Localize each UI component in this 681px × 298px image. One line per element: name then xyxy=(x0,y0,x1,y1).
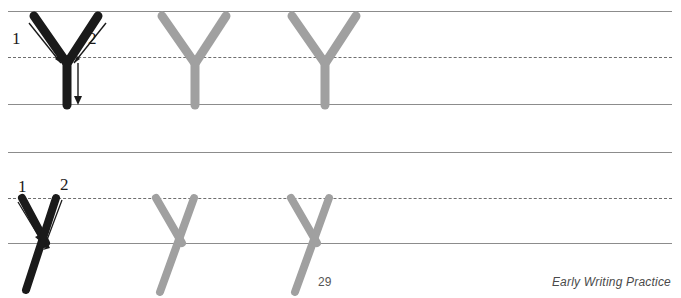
stroke-number-1-lowercase: 1 xyxy=(18,178,27,195)
page-number: 29 xyxy=(318,275,331,289)
practice-letter-lowercase-y-1[interactable] xyxy=(148,190,218,298)
worksheet-sheet: Trace and Write 1 2 xyxy=(0,0,681,298)
stroke-number-2-uppercase: 2 xyxy=(88,30,97,47)
lower-row-topline xyxy=(8,152,672,153)
practice-letter-uppercase-y-2[interactable] xyxy=(280,6,370,111)
stroke-number-2-lowercase: 2 xyxy=(60,176,69,193)
stroke-number-1-uppercase: 1 xyxy=(12,30,21,47)
model-letter-uppercase-y xyxy=(14,6,124,111)
footer-label: Early Writing Practice xyxy=(552,275,671,289)
practice-letter-uppercase-y-1[interactable] xyxy=(150,6,240,111)
model-letter-lowercase-y xyxy=(14,190,94,298)
